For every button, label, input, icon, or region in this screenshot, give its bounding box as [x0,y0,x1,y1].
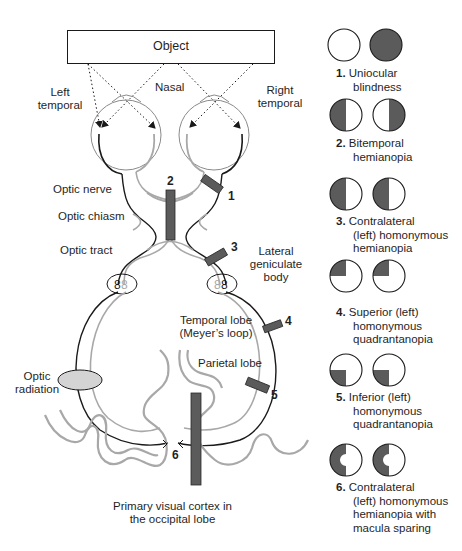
field-4-left [330,260,362,292]
lgn-left: 8 8 [107,274,137,294]
lesion-3-bar [204,248,227,266]
right-eye [179,95,249,174]
legend-item-1: 1. Uniocular blindness [336,67,402,94]
field-3-left [330,178,362,210]
lateral-geniculate-body-label: Lateral geniculate body [248,245,304,284]
field-5-left [330,354,362,386]
left-eye [91,95,161,174]
field-6-right [373,444,405,476]
field-3-right [373,178,405,210]
field-2-right [373,99,405,131]
lesion-5-bar [245,377,269,393]
legend-item-2: 2. Bitemporal hemianopia [336,137,412,164]
field-5-right [373,354,405,386]
optic-chiasm-label: Optic chiasm [58,210,124,223]
lesion-6-bar [191,393,201,485]
svg-text:8: 8 [121,278,128,292]
optic-nerve-label: Optic nerve [53,183,112,196]
temporal-lobe-label: Temporal lobe (Meyer’s loop) [178,314,254,340]
svg-text:8: 8 [114,278,121,292]
lesion-1-bar [201,174,224,193]
primary-visual-cortex-label: Primary visual cortex in the occipital l… [105,500,240,526]
field-1-right [370,29,402,61]
lesion-marker-4: 4 [285,314,292,328]
object-label: Object [67,40,275,53]
svg-text:8: 8 [214,278,221,292]
lesion-marker-2: 2 [167,174,174,188]
left-temporal-label: Left temporal [30,86,90,112]
optic-radiation-ellipse [58,370,102,390]
legend-item-4: 4. Superior (left) homonymous quadrantan… [336,306,433,347]
lesion-marker-5: 5 [271,388,278,402]
lesion-2-bar [166,190,175,240]
field-1-left [328,29,360,61]
parietal-lobe-label: Parietal lobe [198,357,262,370]
light-rays [88,64,253,128]
field-6-left [330,444,362,476]
lesion-marker-3: 3 [231,240,238,254]
nasal-label: Nasal [155,81,184,94]
right-temporal-label: Right temporal [250,84,310,110]
field-4-right [373,260,405,292]
optic-tract-label: Optic tract [60,244,112,257]
field-2-left [330,99,362,131]
legend-item-3: 3. Contralateral (left) homonymous hemia… [336,215,448,256]
legend-item-5: 5. Inferior (left) homonymous quadrantan… [336,391,433,432]
lesion-marker-1: 1 [228,189,235,203]
legend-item-6: 6. Contralateral (left) homonymous hemia… [336,481,448,535]
svg-text:8: 8 [221,278,228,292]
lesion-4-bar [263,320,283,333]
lesion-marker-6: 6 [172,448,179,462]
lgn-right: 8 8 [207,274,237,294]
optic-radiation-label: Optic radiation [14,370,60,396]
